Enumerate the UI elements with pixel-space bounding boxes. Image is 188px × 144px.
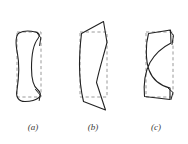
panel-c-caption: (c): [151, 122, 161, 132]
panel-a-caption: (a): [28, 122, 39, 132]
panel-b-group: (b): [80, 22, 108, 133]
panel-c-deformed-outline: [144, 30, 171, 100]
deformation-diagram: (a) (b) (c): [0, 0, 188, 144]
panel-b-caption: (b): [88, 122, 99, 132]
panel-c-group: (c): [144, 30, 173, 132]
figure-container: (a) (b) (c): [0, 0, 188, 144]
panel-b-reference-rect: [80, 32, 107, 97]
panel-a-group: (a): [16, 31, 41, 132]
panel-a-reference-rect: [17, 32, 41, 97]
